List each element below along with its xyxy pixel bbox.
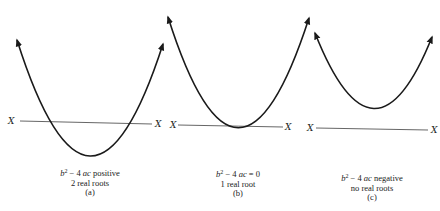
tag-a: (a) bbox=[30, 188, 150, 198]
panel-b bbox=[168, 17, 309, 128]
axis-label-c-left: X bbox=[307, 124, 313, 133]
parabola-one-root bbox=[168, 17, 309, 128]
caption-a: b2 − 4 ac positive 2 real roots (a) bbox=[30, 169, 150, 198]
parabola-no-roots bbox=[315, 33, 432, 109]
axis-label-b-left: X bbox=[170, 121, 176, 130]
caption-b: b2 − 4 ac = 0 1 real root (b) bbox=[178, 170, 298, 199]
x-axis-a bbox=[20, 121, 152, 124]
x-axis-c bbox=[316, 128, 428, 130]
tag-c: (c) bbox=[312, 193, 432, 203]
panel-a bbox=[17, 40, 163, 156]
panel-c bbox=[315, 33, 432, 130]
parabola-two-roots bbox=[17, 40, 163, 156]
caption-c: b2 − 4 ac negative no real roots (c) bbox=[312, 174, 432, 203]
axis-label-b-right: X bbox=[285, 123, 291, 132]
axis-label-c-right: X bbox=[431, 126, 437, 135]
tag-b: (b) bbox=[178, 189, 298, 199]
axis-label-a-right: X bbox=[155, 120, 161, 129]
axis-label-a-left: X bbox=[8, 117, 14, 126]
